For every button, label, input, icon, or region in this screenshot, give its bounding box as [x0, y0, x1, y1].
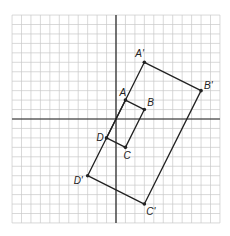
vertex-label: B [147, 97, 154, 108]
coordinate-plane: ABCDA'B'C'D' [0, 0, 230, 236]
vertex-label: B' [204, 80, 214, 91]
vertex-label: A' [134, 48, 145, 59]
vertex-label: C [123, 150, 131, 161]
figures: ABCDA'B'C'D' [74, 48, 214, 217]
vertex-label: C' [146, 206, 156, 217]
figure-abcd-prime: A'B'C'D' [74, 48, 214, 217]
vertex-point [143, 108, 147, 112]
vertex-label: A [118, 87, 126, 98]
vertex-point [124, 146, 128, 150]
vertex-label: D [97, 132, 104, 143]
vertex-point [199, 89, 203, 93]
vertex-label: D' [74, 175, 84, 186]
vertex-point [86, 174, 90, 178]
vertex-point [143, 61, 147, 65]
